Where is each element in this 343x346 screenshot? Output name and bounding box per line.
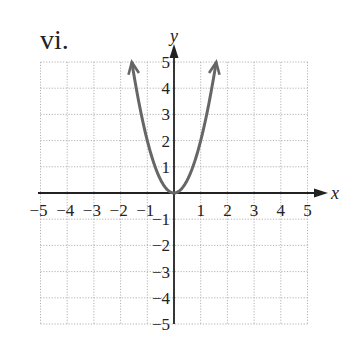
x-axis-label: x (330, 183, 339, 203)
x-tick-label: 1 (196, 201, 205, 220)
x-tick-label: 5 (303, 201, 312, 220)
y-tick-label: 1 (162, 158, 171, 177)
x-tick-label: −2 (110, 201, 128, 220)
coordinate-plane: xy−5−4−3−2−112345−5−4−3−2−112345 (0, 0, 343, 346)
x-tick-label: −3 (83, 201, 101, 220)
x-axis-arrow-icon (314, 189, 328, 198)
y-tick-label: −5 (152, 315, 170, 334)
x-tick-label: −4 (56, 201, 75, 220)
axes (38, 44, 328, 324)
x-tick-label: 4 (277, 201, 286, 220)
x-tick-label: 2 (223, 201, 232, 220)
x-tick-label: 3 (250, 201, 259, 220)
y-tick-label: −2 (152, 236, 170, 255)
y-tick-label: −3 (152, 263, 170, 282)
y-tick-label: 5 (162, 53, 171, 72)
y-tick-label: 3 (162, 105, 171, 124)
y-tick-label: −4 (152, 289, 171, 308)
y-tick-label: 2 (162, 132, 171, 151)
y-tick-label: −1 (152, 210, 170, 229)
x-tick-label: −5 (29, 201, 47, 220)
y-tick-label: 4 (162, 79, 171, 98)
y-axis-label: y (168, 26, 178, 46)
y-axis-arrow-icon (170, 44, 179, 58)
